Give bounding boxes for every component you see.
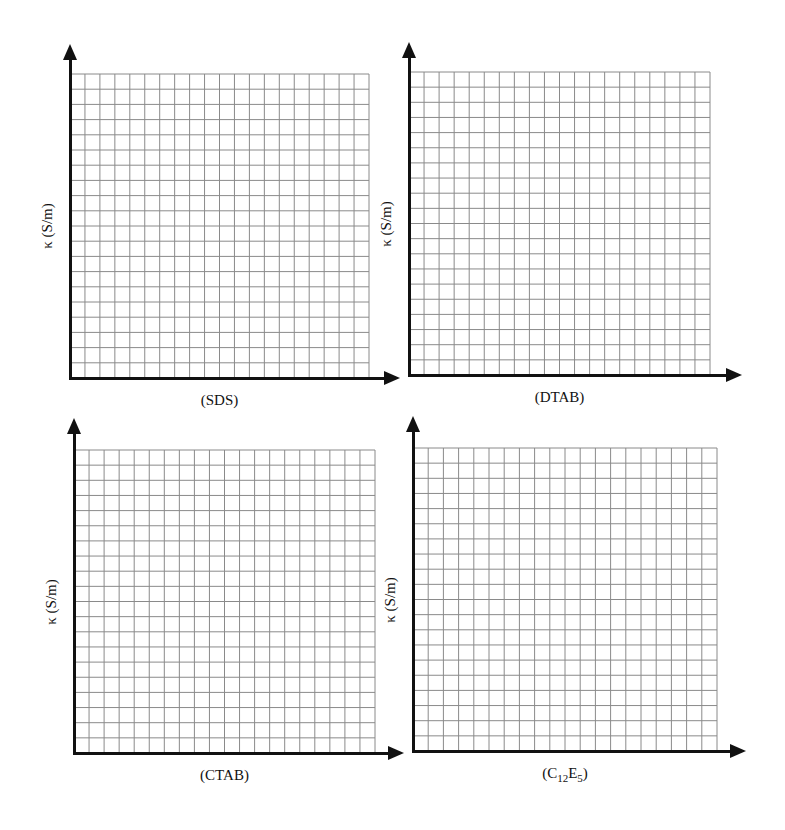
y-axis-label: κ (S/m) bbox=[382, 560, 400, 640]
x-label-pre: (C bbox=[542, 765, 557, 781]
grid bbox=[0, 0, 785, 830]
x-label-sub1: 12 bbox=[557, 772, 568, 784]
x-label-mid: E bbox=[568, 765, 577, 781]
y-axis-arrow-icon bbox=[406, 416, 420, 432]
x-axis bbox=[412, 750, 733, 753]
y-axis bbox=[412, 428, 415, 753]
x-axis-label: (C12E5) bbox=[485, 765, 645, 784]
x-axis-arrow-icon bbox=[730, 744, 746, 758]
x-label-post: ) bbox=[583, 765, 588, 781]
